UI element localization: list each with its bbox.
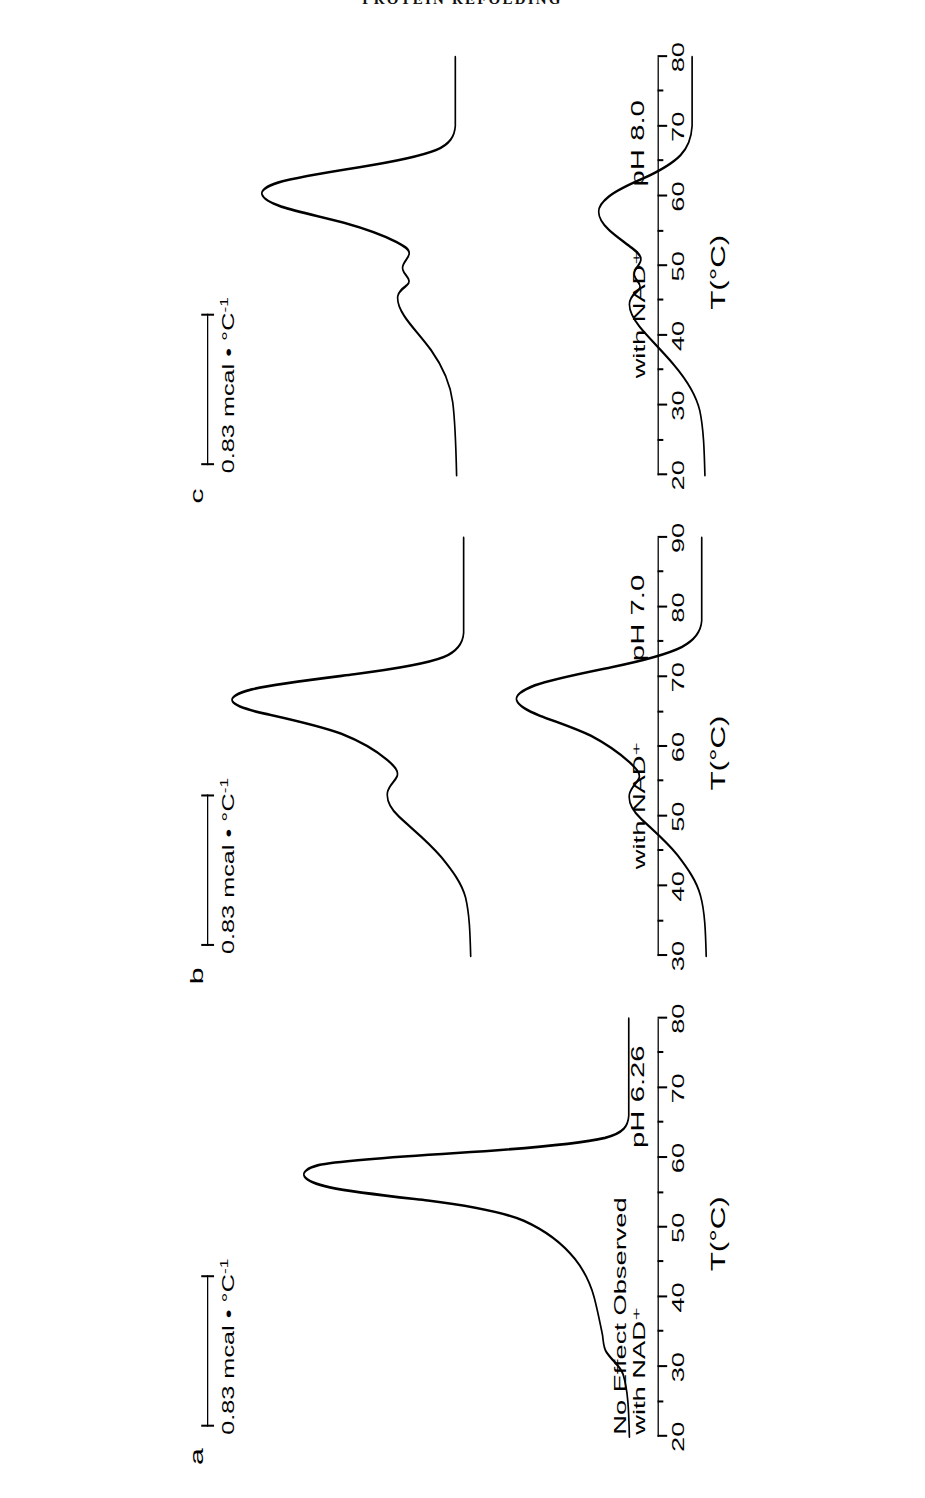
panel-c-curve-nad bbox=[598, 57, 704, 475]
axis-tick-major bbox=[657, 1295, 667, 1297]
axis-tick-major bbox=[657, 884, 667, 886]
panel-c-axis-title: T(°C) bbox=[707, 235, 730, 310]
axis-tick-major bbox=[657, 745, 667, 747]
axis-tick-minor bbox=[657, 780, 663, 782]
axis-tick-major bbox=[657, 536, 667, 538]
axis-tick-major bbox=[657, 55, 667, 57]
axis-tick-major bbox=[657, 1017, 667, 1019]
panel-c: c 0.83 mcal • °C-1 pH 8.0 with NAD⁺ bbox=[181, 35, 744, 510]
axis-tick-minor bbox=[657, 1261, 663, 1263]
axis-tick-major bbox=[657, 125, 667, 127]
axis-tick-minor bbox=[657, 438, 663, 440]
axis-tick-label: 80 bbox=[668, 1003, 688, 1033]
panel-b: b 0.83 mcal • °C-1 pH 7.0 with NAD⁺ bbox=[181, 516, 744, 991]
axis-tick-minor bbox=[657, 160, 663, 162]
panel-c-axis: 20 30 40 50 60 70 80 bbox=[657, 57, 683, 475]
axis-tick-label: 50 bbox=[668, 802, 688, 832]
axis-tick-minor bbox=[657, 229, 663, 231]
panel-a-axis-title: T(°C) bbox=[707, 1196, 730, 1271]
panel-a: a 0.83 mcal • °C-1 pH 6.26 No Effect Obs… bbox=[181, 996, 744, 1471]
axis-tick-label: 60 bbox=[668, 732, 688, 762]
axis-tick-label: 20 bbox=[668, 460, 688, 490]
running-head: PROTEIN REFOLDING bbox=[0, 0, 925, 8]
axis-tick-minor bbox=[657, 1330, 663, 1332]
axis-tick-label: 50 bbox=[668, 1213, 688, 1243]
axis-tick-label: 40 bbox=[668, 871, 688, 901]
axis-tick-major bbox=[657, 264, 667, 266]
axis-tick-major bbox=[657, 606, 667, 608]
axis-tick-label: 90 bbox=[668, 523, 688, 553]
axis-tick-minor bbox=[657, 1191, 663, 1193]
axis-tick-minor bbox=[657, 919, 663, 921]
axis-tick-major bbox=[657, 1086, 667, 1088]
axis-tick-minor bbox=[657, 1121, 663, 1123]
axis-tick-major bbox=[657, 1365, 667, 1367]
axis-tick-label: 40 bbox=[668, 321, 688, 351]
panel-c-curve-apo bbox=[261, 57, 456, 475]
axis-tick-major bbox=[657, 1156, 667, 1158]
axis-tick-major bbox=[657, 195, 667, 197]
panel-b-axis-title: T(°C) bbox=[707, 715, 730, 790]
axis-tick-minor bbox=[657, 1051, 663, 1053]
axis-tick-major bbox=[657, 334, 667, 336]
axis-tick-label: 80 bbox=[668, 42, 688, 72]
axis-tick-minor bbox=[657, 90, 663, 92]
panel-a-axis: 20 30 40 50 60 70 80 bbox=[657, 1019, 683, 1437]
panel-b-axis: 30 40 50 60 70 80 90 bbox=[657, 538, 683, 956]
axis-tick-minor bbox=[657, 849, 663, 851]
figure-canvas: a 0.83 mcal • °C-1 pH 6.26 No Effect Obs… bbox=[181, 27, 744, 1471]
panel-b-curve-apo bbox=[232, 538, 471, 956]
axis-tick-major bbox=[657, 1435, 667, 1437]
axis-tick-label: 70 bbox=[668, 1073, 688, 1103]
axis-tick-major bbox=[657, 815, 667, 817]
panel-a-curve-apo bbox=[303, 1019, 629, 1437]
axis-tick-major bbox=[657, 675, 667, 677]
axis-tick-label: 30 bbox=[668, 1352, 688, 1382]
axis-tick-label: 30 bbox=[668, 941, 688, 971]
axis-tick-label: 50 bbox=[668, 251, 688, 281]
axis-tick-label: 60 bbox=[668, 181, 688, 211]
axis-tick-major bbox=[657, 404, 667, 406]
axis-tick-minor bbox=[657, 571, 663, 573]
axis-tick-label: 20 bbox=[668, 1422, 688, 1452]
axis-tick-minor bbox=[657, 640, 663, 642]
axis-tick-label: 40 bbox=[668, 1282, 688, 1312]
axis-tick-major bbox=[657, 473, 667, 475]
axis-tick-label: 30 bbox=[668, 390, 688, 420]
axis-tick-minor bbox=[657, 1400, 663, 1402]
axis-tick-label: 70 bbox=[668, 662, 688, 692]
axis-tick-label: 70 bbox=[668, 112, 688, 142]
axis-tick-major bbox=[657, 954, 667, 956]
axis-tick-minor bbox=[657, 299, 663, 301]
axis-tick-minor bbox=[657, 710, 663, 712]
axis-tick-major bbox=[657, 1226, 667, 1228]
axis-tick-label: 80 bbox=[668, 592, 688, 622]
axis-tick-minor bbox=[657, 369, 663, 371]
axis-tick-label: 60 bbox=[668, 1143, 688, 1173]
